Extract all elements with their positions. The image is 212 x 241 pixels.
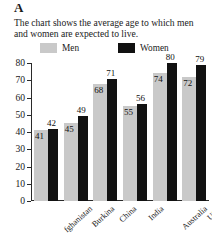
y-axis-tick-label: 0 <box>20 196 25 206</box>
legend-swatch-women-icon <box>118 43 135 53</box>
y-axis-tick-label: 60 <box>15 93 25 103</box>
y-axis-tick-label: 10 <box>15 179 25 189</box>
y-axis-tick <box>27 184 31 185</box>
bar-group: 55 <box>123 63 150 201</box>
bar-value-men: 68 <box>94 86 103 95</box>
bar-women <box>107 79 117 201</box>
legend-item-women: Women <box>118 42 169 54</box>
legend-label-women: Women <box>140 43 169 53</box>
y-axis-tick <box>27 63 31 64</box>
bar-value-women: 80 <box>166 53 175 62</box>
y-axis-tick <box>27 167 31 168</box>
panel-letter: A <box>14 1 23 14</box>
y-axis-tick <box>27 80 31 81</box>
bar-chart-plot-area: 01020304050607080 4241494571685655807479… <box>31 63 209 201</box>
bar-value-men: 72 <box>183 79 192 88</box>
bar-value-men: 41 <box>35 132 44 141</box>
x-axis-label: fghanistan <box>63 205 95 235</box>
legend-item-men: Men <box>40 42 79 54</box>
bar-group: 72 <box>182 63 209 201</box>
x-axis-label: Burkina <box>91 205 117 229</box>
y-axis-tick-label: 80 <box>15 58 25 68</box>
bar-group: 41 <box>34 63 61 201</box>
x-axis-label: USA <box>207 205 212 222</box>
y-axis-line <box>31 63 32 201</box>
y-axis-tick <box>27 149 31 150</box>
bar-women <box>167 63 177 201</box>
x-axis-label: China <box>118 205 138 225</box>
bar-women <box>78 116 88 201</box>
y-axis-tick-label: 30 <box>15 144 25 154</box>
y-axis-tick <box>27 115 31 116</box>
bar-value-men: 74 <box>154 75 163 84</box>
bar-value-men: 45 <box>65 125 74 134</box>
bar-group: 74 <box>153 63 180 201</box>
y-axis-tick-label: 20 <box>15 162 25 172</box>
y-axis-tick <box>27 132 31 133</box>
y-axis-tick-label: 40 <box>15 127 25 137</box>
x-axis-label: Australia <box>181 205 209 232</box>
y-axis-tick-label: 70 <box>15 75 25 85</box>
bar-group: 45 <box>64 63 91 201</box>
bar-women <box>196 65 206 201</box>
legend-swatch-men-icon <box>40 43 57 53</box>
y-axis-tick <box>27 98 31 99</box>
bar-group: 68 <box>93 63 120 201</box>
bar-women <box>137 104 147 201</box>
legend-label-men: Men <box>62 43 79 53</box>
chart-caption: The chart shows the average age to which… <box>14 17 206 39</box>
bar-value-men: 55 <box>124 108 133 117</box>
bar-women <box>48 129 58 201</box>
y-axis-tick-label: 50 <box>15 110 25 120</box>
x-axis-label: India <box>147 205 165 223</box>
chart-legend: Men Women <box>40 42 210 54</box>
y-axis-tick <box>27 201 31 202</box>
